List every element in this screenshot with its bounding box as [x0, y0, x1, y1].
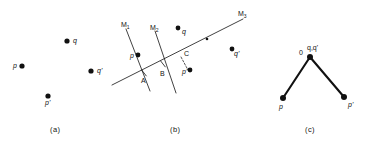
panel-b-label-m3-subscript: 3 [244, 13, 247, 19]
panel-b-label-b: B [160, 70, 165, 77]
panel-c-segment-o-p [283, 57, 310, 98]
panel-c-segment-o-pprime [310, 57, 344, 97]
panel-b-tick-b [161, 61, 166, 67]
panel-b-label-m1-subscript: 1 [127, 24, 130, 30]
panel-c-label-p-prime: p' [348, 101, 353, 108]
caption-c: (c) [305, 126, 315, 134]
panel-b-label-p-prime: p' [182, 68, 187, 75]
panel-c-label-p: p [279, 103, 283, 110]
figure-container: qpq'p'pqq'p'M1M2M3ABCpp'0q,q'(a)(b)(c) [0, 0, 374, 146]
panel-a-point-p [19, 63, 24, 68]
panel-b-point-q [176, 26, 181, 31]
panel-c-point-p-prime [341, 94, 347, 100]
panel-c-point-p [280, 95, 286, 101]
panel-a-label-p: p [13, 62, 17, 69]
panel-b-mirror-m1 [126, 29, 150, 91]
panel-b-label-c: C [184, 50, 189, 57]
panel-b-label-m3: M3 [238, 10, 247, 19]
panel-a-point-p-prime [45, 93, 50, 98]
panel-a-point-q-prime [88, 68, 93, 73]
panel-b-label-m1: M1 [121, 21, 130, 30]
caption-b: (b) [170, 126, 180, 134]
panel-a-label-q: q [73, 37, 77, 44]
panel-a-point-q [64, 38, 69, 43]
panel-b-label-q: q [182, 28, 186, 35]
panel-b-label-a: A [141, 77, 146, 84]
panel-a-label-p-prime: p' [45, 99, 50, 106]
panel-c-label-origin: 0 [299, 49, 303, 56]
panel-b-label-m2-subscript: 2 [156, 27, 159, 33]
panel-b-label-m2: M2 [150, 24, 159, 33]
panel-b-point-midpoint-marker [206, 38, 209, 41]
panel-b-label-p: p [130, 52, 134, 59]
panel-b-point-p-prime [188, 68, 193, 73]
panel-b-label-q-prime: q' [234, 50, 239, 57]
caption-a: (a) [50, 126, 60, 134]
panel-a-label-q-prime: q' [97, 67, 102, 74]
panel-b-point-p [136, 53, 141, 58]
panel-c-point-apex-o [307, 54, 313, 60]
panel-a [19, 38, 93, 98]
panel-c-label-q-qprime: q,q' [307, 44, 318, 51]
panel-c [280, 54, 347, 101]
